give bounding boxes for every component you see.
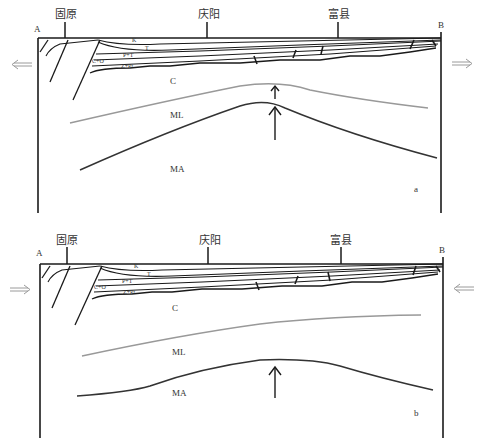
layer-co-label: C+O xyxy=(92,58,104,64)
moho-boundary-line xyxy=(82,315,421,356)
panel-label-b: b xyxy=(414,408,419,418)
layer-pt-label: P+T xyxy=(122,278,133,284)
lithosphere-asthenosphere-boundary xyxy=(80,102,437,170)
uplift-arrow-icon xyxy=(269,86,281,140)
endpoint-a-label: A xyxy=(36,248,43,258)
region-mantle-lithosphere-label: ML xyxy=(170,110,184,120)
panel-label-a: a xyxy=(414,184,418,194)
place-fuxian: 富县 xyxy=(328,7,350,20)
place-qingyang: 庆阳 xyxy=(199,233,221,246)
endpoint-a-label: A xyxy=(34,24,41,34)
layer-t-label: T xyxy=(147,271,151,277)
region-mantle-asthenosphere-label: MA xyxy=(170,164,185,174)
endpoint-b-label: B xyxy=(439,245,445,255)
layer-t-label: T xyxy=(145,45,149,51)
panel-b: A B 固原 庆阳 富县 xyxy=(10,233,474,438)
region-mantle-lithosphere-label: ML xyxy=(172,347,186,357)
thrust-faults xyxy=(42,266,102,325)
extension-arrow-right-icon xyxy=(452,59,472,68)
uplift-arrow-icon xyxy=(269,367,281,398)
compression-arrow-left-icon xyxy=(10,285,30,294)
compression-arrow-right-icon xyxy=(454,284,474,293)
layer-k-label: K xyxy=(132,37,137,43)
layer-zpt-label: Z+Pt xyxy=(123,289,135,295)
place-guyuan: 固原 xyxy=(56,234,78,246)
thrust-faults xyxy=(40,40,100,100)
place-qingyang: 庆阳 xyxy=(198,7,220,20)
region-mantle-asthenosphere-label: MA xyxy=(172,388,187,398)
strata-layers xyxy=(48,264,443,299)
lithosphere-asthenosphere-boundary xyxy=(77,360,433,396)
place-fuxian: 富县 xyxy=(330,233,352,246)
region-crust-label: C xyxy=(170,76,176,86)
strata-layers xyxy=(46,38,441,73)
endpoint-b-label: B xyxy=(438,20,444,30)
layer-pt-label: P+T xyxy=(123,52,134,58)
layer-k-label: K xyxy=(134,263,139,269)
extension-arrow-left-icon xyxy=(12,60,32,69)
layer-zpt-label: Z+Pt xyxy=(121,63,133,69)
region-crust-label: C xyxy=(172,303,178,313)
layer-co-label: C+O xyxy=(94,284,106,290)
cross-section-diagram: A B 固原 庆阳 富县 xyxy=(0,0,481,446)
place-guyuan: 固原 xyxy=(55,8,77,20)
panel-a: A B 固原 庆阳 富县 xyxy=(12,7,472,213)
